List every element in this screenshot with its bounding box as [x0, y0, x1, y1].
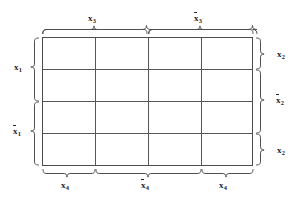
label-left-x1-bar-base: x	[13, 127, 18, 136]
label-left-x1-bar-sub: 1	[18, 130, 21, 137]
kmap-graphics	[0, 0, 300, 201]
label-left-x1-bar: x1	[13, 127, 21, 138]
label-left-x1: x1	[14, 63, 22, 74]
label-right-x2-top-sub: 2	[282, 53, 285, 60]
brace-bottom-x4-right	[202, 170, 253, 178]
brace-right-x2-top	[257, 38, 265, 69]
brace-bottom-x4-bar	[96, 170, 201, 178]
brace-left-x1	[31, 38, 39, 101]
label-top-x3: x3	[88, 14, 96, 25]
label-top-x3-bar: x3	[194, 14, 202, 25]
label-right-x2-bottom-base: x	[277, 146, 282, 155]
label-bottom-x4-right-base: x	[219, 181, 224, 190]
label-bottom-x4-right: x4	[219, 181, 227, 192]
brace-left-x1-bar	[31, 102, 39, 165]
label-bottom-x4-bar: x4	[141, 181, 149, 192]
label-bottom-x4-left: x4	[61, 181, 69, 192]
brace-right-x2-bar	[257, 70, 265, 133]
label-bottom-x4-left-base: x	[61, 181, 66, 190]
label-left-x1-base: x	[14, 63, 19, 72]
label-right-x2-top: x2	[277, 50, 285, 61]
label-right-x2-bottom: x2	[277, 146, 285, 157]
label-right-x2-bottom-sub: 2	[282, 149, 285, 156]
karnaugh-map-figure: x3 x3 x4 x4 x4 x1 x1 x2 x2 x2	[0, 0, 300, 201]
label-top-x3-bar-base: x	[194, 14, 199, 23]
brace-bottom-x4-left	[43, 170, 95, 178]
label-bottom-x4-bar-sub: 4	[146, 184, 149, 191]
label-right-x2-top-base: x	[277, 50, 282, 59]
label-right-x2-bar-base: x	[276, 96, 281, 105]
label-bottom-x4-right-sub: 4	[224, 184, 227, 191]
label-bottom-x4-left-sub: 4	[66, 184, 69, 191]
brace-right-x2-bottom	[257, 134, 265, 165]
label-right-x2-bar: x2	[276, 96, 284, 107]
label-right-x2-bar-sub: 2	[281, 99, 284, 106]
label-top-x3-bar-sub: 3	[199, 17, 202, 24]
label-bottom-x4-bar-base: x	[141, 181, 146, 190]
label-top-x3-sub: 3	[93, 17, 96, 24]
label-top-x3-base: x	[88, 14, 93, 23]
label-left-x1-sub: 1	[19, 66, 22, 73]
